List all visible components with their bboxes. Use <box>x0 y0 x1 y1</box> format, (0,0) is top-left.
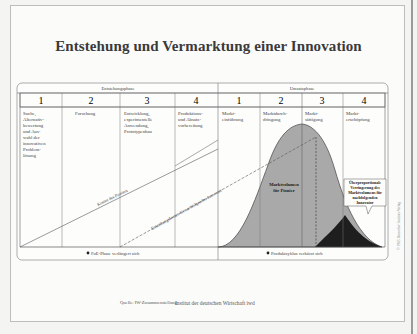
svg-text:und Absatz-: und Absatz- <box>178 117 201 122</box>
svg-text:bewertung: bewertung <box>23 123 44 128</box>
svg-text:für Pionier: für Pionier <box>273 188 294 193</box>
svg-text:Alternativ-: Alternativ- <box>23 117 44 122</box>
step-number: 1 <box>237 95 242 106</box>
svg-text:Marktdurch-: Marktdurch- <box>263 111 288 116</box>
svg-text:Markt-: Markt- <box>346 111 360 116</box>
svg-text:lösung: lösung <box>23 153 36 158</box>
lifecycle-footnote: Produktzyklus verkürzt sich <box>271 251 323 256</box>
source-credit: Quelle: IW-Zusammenstellung <box>120 300 177 305</box>
copyright-note: © 1983 Deutscher Instituts-Verlag <box>397 202 401 250</box>
phase-label-entstehung: Entstehungsphase <box>102 86 135 91</box>
svg-text:Innovator: Innovator <box>356 200 373 205</box>
bullet-icon <box>267 252 270 255</box>
svg-text:Markt-: Markt- <box>222 111 236 116</box>
svg-text:Produktions-: Produktions- <box>178 111 203 116</box>
pioneer-volume-label: Marktvolumen <box>269 182 299 187</box>
svg-text:innovativen: innovativen <box>23 141 46 146</box>
svg-text:experimentelle: experimentelle <box>124 117 153 122</box>
svg-text:vorbereitung: vorbereitung <box>178 123 203 128</box>
step-number: 3 <box>145 95 150 106</box>
svg-text:Prototypenbau: Prototypenbau <box>124 129 153 134</box>
innovation-diagram: Entstehungsphase Umsatzphase 1 2 3 4 1 2… <box>0 0 417 334</box>
svg-text:wahl der: wahl der <box>23 135 40 140</box>
step-number: 2 <box>279 95 284 106</box>
bullet-icon <box>87 252 90 255</box>
svg-text:sättigung: sättigung <box>305 117 323 122</box>
svg-text:Markt-: Markt- <box>305 111 319 116</box>
svg-text:und Aus-: und Aus- <box>23 129 41 134</box>
svg-text:Forschung: Forschung <box>75 111 96 116</box>
svg-text:dringung: dringung <box>263 117 281 122</box>
institute-credit: Institut der deutschen Wirtschaft iwd <box>175 300 255 306</box>
phase-label-umsatz: Umsatzphase <box>290 86 315 91</box>
svg-text:Problem-: Problem- <box>23 147 41 152</box>
svg-text:einführung: einführung <box>222 117 244 122</box>
rnd-footnote: FuE-Phase verlängert sich <box>91 251 140 256</box>
step-number: 3 <box>320 95 325 106</box>
svg-text:erschöpfung: erschöpfung <box>346 117 370 122</box>
step-number: 4 <box>362 95 367 106</box>
step-number: 2 <box>89 95 94 106</box>
step-number: 4 <box>194 95 199 106</box>
step-number: 1 <box>39 95 44 106</box>
